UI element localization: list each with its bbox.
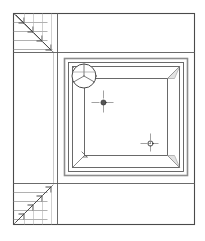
architectural-drawing-canvas: Bathroom Floor Plan Detail architectural… — [0, 0, 205, 241]
floor-plan-drawing — [0, 0, 205, 241]
drain-outlet — [72, 64, 96, 88]
centermark-dot — [101, 100, 106, 105]
